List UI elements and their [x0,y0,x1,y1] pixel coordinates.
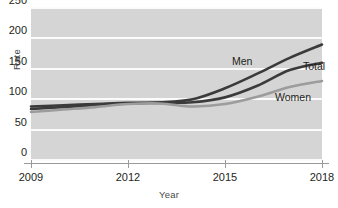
series-label-men: Men [232,56,252,67]
series-label-women: Women [275,92,311,103]
series-lines-layer [0,0,338,208]
line-chart: Rate 050100150200250 2009201220152018 Ye… [0,0,338,208]
series-label-total: Total [303,61,325,72]
